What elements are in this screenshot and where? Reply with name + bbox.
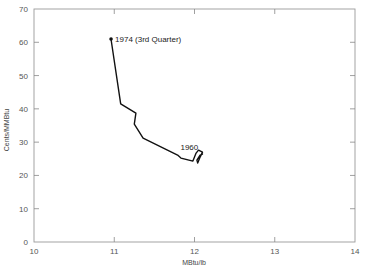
y-tick-label: 20 bbox=[19, 171, 28, 180]
x-tick-label: 12 bbox=[190, 247, 199, 256]
y-tick-label: 40 bbox=[19, 105, 28, 114]
axis-ticks bbox=[34, 9, 355, 242]
x-axis-title: MBtu/lb bbox=[182, 259, 206, 266]
y-tick-label: 30 bbox=[19, 138, 28, 147]
x-tick-label: 13 bbox=[270, 247, 279, 256]
y-tick-label: 50 bbox=[19, 72, 28, 81]
x-tick-label: 10 bbox=[30, 247, 39, 256]
x-tick-label: 14 bbox=[351, 247, 360, 256]
x-tick-label: 11 bbox=[110, 247, 119, 256]
plot-frame bbox=[34, 9, 355, 242]
x-tick-labels: 1011121314 bbox=[30, 247, 360, 256]
chart: 1011121314 010203040506070 MBtu/lb Cents… bbox=[0, 0, 372, 271]
y-tick-label: 0 bbox=[24, 238, 29, 247]
y-tick-label: 60 bbox=[19, 38, 28, 47]
y-axis-title: Cents/MMBtu bbox=[3, 109, 10, 152]
y-tick-label: 70 bbox=[19, 5, 28, 14]
annotation-1960: 1960 bbox=[180, 143, 198, 152]
y-tick-label: 10 bbox=[19, 205, 28, 214]
start-point-marker bbox=[109, 37, 113, 41]
annotation-1974: 1974 (3rd Quarter) bbox=[115, 35, 182, 44]
y-tick-labels: 010203040506070 bbox=[19, 5, 28, 247]
